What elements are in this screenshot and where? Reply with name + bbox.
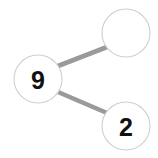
connector-whole-to-part-bottom — [58, 92, 107, 113]
part-top-circle[interactable] — [102, 9, 150, 57]
whole-value-label: 9 — [31, 66, 45, 94]
number-bond-diagram: 9 2 — [0, 0, 158, 158]
part-bottom-value-label: 2 — [119, 113, 133, 141]
number-bond-canvas: 9 2 — [0, 0, 158, 158]
connector-whole-to-part-top — [58, 47, 107, 66]
